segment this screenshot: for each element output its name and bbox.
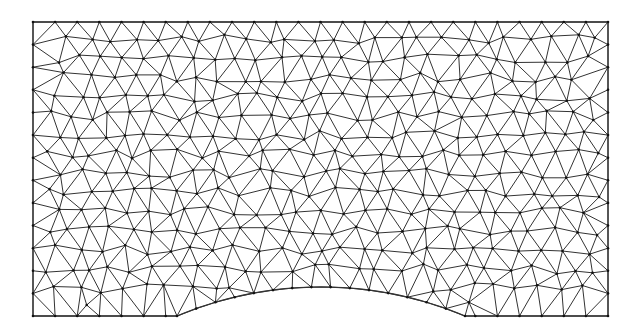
- mesh-node: [607, 89, 610, 92]
- mesh-node: [576, 231, 579, 234]
- mesh-node: [66, 228, 69, 231]
- mesh-node: [201, 157, 204, 160]
- mesh-node: [554, 150, 557, 153]
- mesh-node: [339, 167, 342, 170]
- mesh-node: [528, 113, 531, 116]
- mesh-node: [387, 292, 390, 295]
- mesh-node: [496, 133, 499, 136]
- mesh-node: [321, 56, 324, 59]
- mesh-node: [228, 176, 231, 179]
- mesh-node: [209, 21, 212, 24]
- mesh-node: [421, 155, 424, 158]
- mesh-node: [530, 264, 533, 267]
- mesh-node: [530, 154, 533, 157]
- mesh-node: [511, 80, 514, 83]
- mesh-node: [270, 41, 273, 44]
- mesh-node: [474, 315, 477, 318]
- mesh-node: [308, 195, 311, 198]
- mesh-node: [142, 57, 145, 60]
- mesh-node: [121, 287, 124, 290]
- mesh-node: [147, 210, 150, 213]
- mesh-node: [224, 266, 227, 269]
- mesh-node: [240, 114, 243, 117]
- mesh-node: [474, 282, 477, 285]
- mesh-node: [105, 137, 108, 140]
- mesh-node: [291, 270, 294, 273]
- mesh-node: [371, 119, 374, 122]
- mesh-node: [464, 315, 467, 318]
- mesh-node: [510, 269, 513, 272]
- mesh-node: [411, 94, 414, 97]
- mesh-node: [452, 21, 455, 24]
- mesh-node: [482, 154, 485, 157]
- mesh-node: [228, 287, 231, 290]
- mesh-node: [520, 171, 523, 174]
- mesh-node: [195, 233, 198, 236]
- mesh-node: [50, 110, 53, 113]
- mesh-node: [98, 21, 101, 24]
- mesh-node: [382, 170, 385, 173]
- mesh-node: [607, 292, 610, 295]
- mesh-node: [355, 226, 358, 229]
- mesh-node: [374, 36, 377, 39]
- mesh-node: [264, 226, 267, 229]
- mesh-node: [607, 247, 610, 250]
- mesh-node: [136, 38, 139, 41]
- mesh-node: [583, 131, 586, 134]
- mesh-node: [148, 175, 151, 178]
- mesh-node: [437, 110, 440, 113]
- mesh-node: [233, 213, 236, 216]
- mesh-node: [276, 96, 279, 99]
- mesh-node: [432, 290, 435, 293]
- mesh-node: [380, 153, 383, 156]
- mesh-node: [381, 249, 384, 252]
- mesh-node: [111, 190, 114, 193]
- mesh-node: [607, 224, 610, 227]
- mesh-node: [245, 38, 248, 41]
- mesh-node: [215, 287, 218, 290]
- mesh-node: [180, 35, 183, 38]
- mesh-node: [556, 273, 559, 276]
- mesh-node: [533, 193, 536, 196]
- mesh-node: [566, 61, 569, 64]
- mesh-node: [32, 66, 35, 69]
- mesh-node: [598, 196, 601, 199]
- mesh-node: [82, 96, 85, 99]
- mesh-node: [270, 114, 273, 117]
- mesh-node: [310, 286, 313, 289]
- mesh-node: [80, 208, 83, 211]
- mesh-node: [577, 34, 580, 37]
- mesh-node: [563, 21, 566, 24]
- mesh-node: [192, 57, 195, 60]
- mesh-node: [342, 213, 345, 216]
- mesh-node: [517, 250, 520, 253]
- mesh-node: [535, 98, 538, 101]
- mesh-node: [255, 92, 258, 95]
- mesh-node: [289, 117, 292, 120]
- mesh-node: [76, 21, 79, 24]
- mesh-node: [607, 202, 610, 205]
- mesh-node: [592, 119, 595, 122]
- mesh-node: [572, 110, 575, 113]
- mesh-node: [76, 315, 79, 318]
- mesh-node: [386, 208, 389, 211]
- mesh-node: [596, 234, 599, 237]
- mesh-node: [334, 149, 337, 152]
- mesh-node: [540, 315, 543, 318]
- mesh-node: [169, 213, 172, 216]
- mesh-node: [303, 138, 306, 141]
- mesh-node: [399, 78, 402, 81]
- mesh-node: [314, 263, 317, 266]
- mesh-node: [554, 75, 557, 78]
- mesh-node: [32, 89, 35, 92]
- mesh-node: [271, 170, 274, 173]
- mesh-node: [566, 100, 569, 103]
- mesh-node: [519, 212, 522, 215]
- mesh-node: [382, 60, 385, 63]
- mesh-node: [607, 156, 610, 159]
- mesh-node: [32, 156, 35, 159]
- mesh-node: [88, 226, 91, 229]
- mesh-node: [485, 189, 488, 192]
- mesh-node: [109, 40, 112, 43]
- mesh-node: [581, 284, 584, 287]
